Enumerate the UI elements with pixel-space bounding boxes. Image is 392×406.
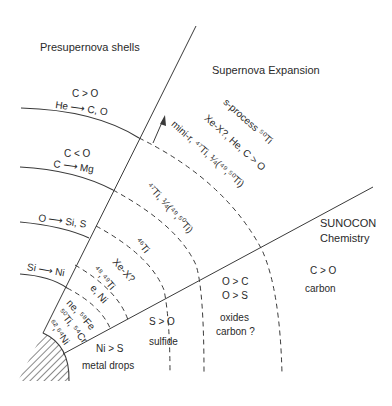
he-shell-ratio: C > O [72,89,98,99]
presupernova-title: Presupernova shells [40,42,140,53]
carbon-name: carbon [305,284,336,294]
oxide-name-1: oxides [220,313,249,323]
carbon-ratio: C > O [310,266,336,276]
diagram-canvas [0,0,392,406]
sulfide-name: sulfide [149,337,178,347]
expansion-title: Supernova Expansion [212,65,320,76]
metal-ratio: Ni > S [96,344,124,354]
oxide-ratio-2: O > S [222,291,248,301]
sunocon-title: SUNOCON [320,218,376,229]
expansion-arrow [153,115,166,143]
chemistry-title: Chemistry [320,233,370,244]
oxide-ratio-1: O > C [222,277,248,287]
metal-name: metal drops [82,361,134,371]
c-shell-ratio: C < O [64,149,90,159]
sulfide-ratio: S > O [149,317,175,327]
oxide-name-2: carbon ? [216,327,255,337]
